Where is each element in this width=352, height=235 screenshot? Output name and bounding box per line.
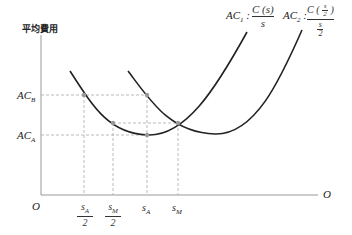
x-tick-sm: sM xyxy=(172,203,182,216)
ac1-curve xyxy=(70,32,247,135)
x-axis-end-label: O xyxy=(323,189,331,200)
ac1-label: AC1 : xyxy=(226,10,250,24)
origin-label: O xyxy=(32,201,40,212)
x-tick-sa-half: sA 2 xyxy=(77,202,93,228)
x-tick-sa: sA xyxy=(142,203,150,216)
x-tick-sm-half: sM 2 xyxy=(105,202,121,228)
ac2-curve xyxy=(128,30,302,134)
ac1-formula: C (s) s xyxy=(252,4,274,29)
ac2-label: AC2 : xyxy=(283,10,307,24)
ac2-formula: C ( s2 ) s2 xyxy=(307,3,334,38)
diagram-canvas xyxy=(0,0,352,235)
y-tick-acb: ACB xyxy=(17,90,35,104)
y-axis-label: 平均費用 xyxy=(22,22,58,35)
guide-lines xyxy=(41,95,178,195)
y-tick-aca: ACA xyxy=(17,130,35,144)
